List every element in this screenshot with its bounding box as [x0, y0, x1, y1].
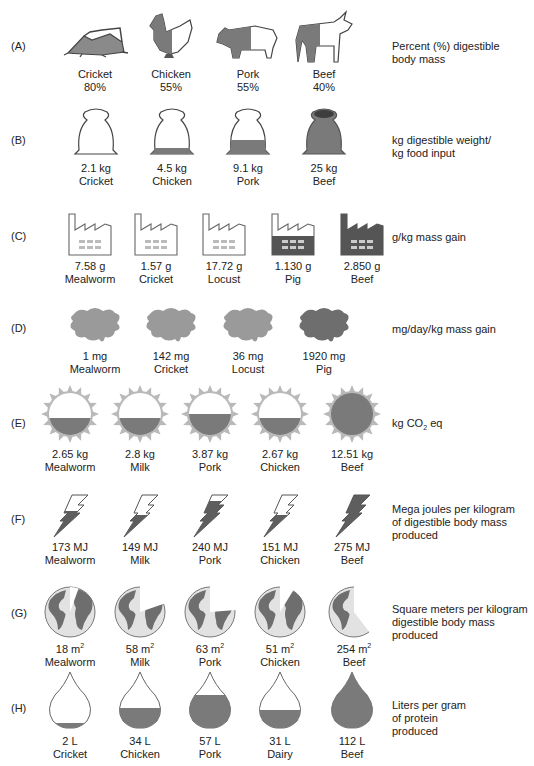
item-value: 12.51 kg [312, 448, 392, 461]
item-locust: 36 mg Locust [208, 305, 288, 376]
item-pork: 240 MJ Pork [170, 495, 250, 567]
splat-icon [143, 305, 199, 345]
row-label: (H) [11, 702, 26, 714]
item-chicken: Chicken 55% [131, 12, 211, 94]
item-mealworm: 2.65 kg Mealworm [30, 384, 110, 474]
item-value: 51 m2 [240, 639, 320, 656]
row-label: (E) [11, 417, 26, 429]
value-number: 18 m [56, 643, 80, 655]
item-value: 9.1 kg [208, 162, 288, 175]
item-value: 55% [131, 81, 211, 94]
cricket-icon [62, 22, 128, 58]
water-drop-icon [259, 671, 301, 729]
item-mealworm: 173 MJ Mealworm [30, 495, 110, 567]
item-value: 63 m2 [170, 639, 250, 656]
value-number: 254 m [337, 643, 368, 655]
sun-icon [322, 384, 382, 444]
item-name: Mealworm [30, 554, 110, 567]
item-chicken: 51 m2 Chicken [240, 586, 320, 669]
item-value: 17.72 g [184, 260, 264, 273]
item-pork: 57 L Pork [170, 671, 250, 761]
water-drop-icon [49, 671, 91, 729]
item-name: Beef [312, 748, 392, 761]
globe-icon [328, 586, 380, 638]
item-beef: 112 L Beef [312, 671, 392, 761]
factory-icon [201, 212, 247, 256]
row-label: (G) [11, 607, 27, 619]
lightning-bolt-icon [332, 495, 372, 539]
item-locust: 17.72 g Locust [184, 212, 264, 286]
lightning-bolt-icon [120, 495, 160, 539]
item-value: 151 MJ [240, 541, 320, 554]
item-name: Cricket [131, 363, 211, 376]
item-value: 2 L [30, 735, 110, 748]
lightning-bolt-icon [190, 495, 230, 539]
item-name: Beef [312, 554, 392, 567]
item-value: 31 L [240, 735, 320, 748]
item-name: Pork [170, 554, 250, 567]
item-cricket: 2.1 kg Cricket [56, 108, 136, 188]
item-name: Beef [322, 273, 402, 286]
item-value: 40% [284, 81, 364, 94]
item-name: Chicken [240, 554, 320, 567]
item-value: 34 L [100, 735, 180, 748]
item-name: Pig [284, 363, 364, 376]
item-milk: 149 MJ Milk [100, 495, 180, 567]
sun-icon [250, 384, 310, 444]
row-d: (D) 1 mg Mealworm 142 mg Cricket 36 mg L… [0, 295, 534, 380]
item-name: Beef [284, 175, 364, 188]
row-description: Liters per gram of protein produced [392, 699, 466, 738]
item-value: 36 mg [208, 350, 288, 363]
row-h: (H) 2 L Cricket 34 L Chicken 57 L Pork [0, 665, 534, 766]
cow-icon [294, 10, 354, 66]
item-value: 149 MJ [100, 541, 180, 554]
item-beef: 2.850 g Beef [322, 212, 402, 286]
item-value: 3.87 kg [170, 448, 250, 461]
item-name: Cricket [55, 68, 135, 81]
water-drop-icon [189, 671, 231, 729]
globe-icon [184, 586, 236, 638]
item-mealworm: 18 m2 Mealworm [30, 586, 110, 669]
value-superscript: 2 [80, 642, 84, 649]
feed-sack-icon [149, 108, 195, 156]
item-name: Cricket [30, 748, 110, 761]
sun-icon [180, 384, 240, 444]
row-a: (A) Cricket 80% Chicken 55% Pork 55% [0, 0, 534, 100]
item-name: Mealworm [55, 363, 135, 376]
globe-icon [114, 586, 166, 638]
item-value: 1 mg [55, 350, 135, 363]
feed-sack-icon [73, 108, 119, 156]
factory-icon [133, 212, 179, 256]
item-pork: 9.1 kg Pork [208, 108, 288, 188]
sun-icon [110, 384, 170, 444]
row-description: Percent (%) digestible body mass [392, 40, 500, 66]
item-value: 55% [208, 81, 288, 94]
chicken-icon [146, 12, 196, 60]
pig-icon [215, 22, 281, 60]
row-label: (B) [11, 134, 26, 146]
item-cricket: 142 mg Cricket [131, 305, 211, 376]
value-number: 51 m [266, 643, 290, 655]
item-beef: 12.51 kg Beef [312, 384, 392, 474]
item-name: Pig [253, 273, 333, 286]
item-value: 1920 mg [284, 350, 364, 363]
row-c: (C) 7.58 g Mealworm 1.57 g Cricket 17.72… [0, 200, 534, 295]
item-value: 2.65 kg [30, 448, 110, 461]
item-value: 80% [55, 81, 135, 94]
item-cricket: 2 L Cricket [30, 671, 110, 761]
item-name: Mealworm [30, 461, 110, 474]
item-milk: 2.8 kg Milk [100, 384, 180, 474]
row-label: (F) [11, 513, 25, 525]
desc-text: eq [427, 417, 442, 429]
item-pork: 3.87 kg Pork [170, 384, 250, 474]
item-name: Beef [312, 461, 392, 474]
item-name: Locust [208, 363, 288, 376]
item-value: 142 mg [131, 350, 211, 363]
item-name: Chicken [240, 461, 320, 474]
water-drop-icon [119, 671, 161, 729]
row-label: (A) [11, 40, 26, 52]
item-dairy: 31 L Dairy [240, 671, 320, 761]
item-mealworm: 1 mg Mealworm [55, 305, 135, 376]
splat-icon [67, 305, 123, 345]
item-name: Cricket [56, 175, 136, 188]
